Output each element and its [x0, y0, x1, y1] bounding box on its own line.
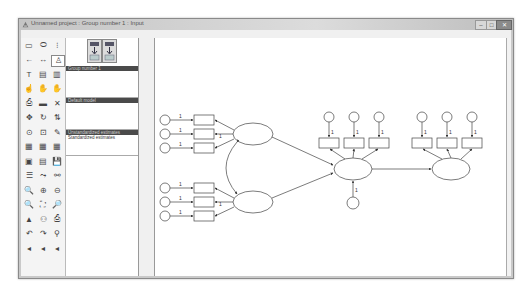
path-constraint-label: 1	[179, 141, 182, 147]
reflect-indicators-icon[interactable]: ⇅	[51, 113, 63, 123]
zoom-out-icon[interactable]: ⊖	[51, 185, 63, 195]
add-unique-variable-icon[interactable]: ♙	[51, 55, 65, 67]
draw-unobserved-variable-icon[interactable]: ⬭	[37, 40, 49, 50]
copy-diagram-icon[interactable]: ▣	[23, 156, 35, 166]
deselect-all-objects-icon[interactable]: ✋	[51, 84, 63, 94]
scroll-left-icon[interactable]: ◂	[23, 243, 35, 253]
groups-panel	[66, 71, 138, 98]
view-text-output-icon[interactable]: ▤	[37, 156, 49, 166]
analysis-properties-icon[interactable]: ▦	[37, 142, 49, 152]
path-constraint-label: 1	[356, 129, 359, 135]
multiple-group-analysis-icon[interactable]: ⚇	[37, 214, 49, 224]
path-constraint-label: 1	[381, 129, 384, 135]
preserve-symmetries-icon[interactable]: ⚯	[51, 171, 63, 181]
models-panel	[66, 103, 138, 130]
undo-icon[interactable]: ↶	[23, 229, 35, 239]
path-constraint-label: 1	[355, 187, 358, 193]
zoom-in-icon[interactable]: ⊕	[37, 185, 49, 195]
erase-objects-icon[interactable]: ✕	[51, 98, 63, 108]
factor3	[319, 112, 389, 209]
select-all-objects-icon[interactable]: ✋	[37, 84, 49, 94]
estimates-panel: Standardized estimates	[66, 135, 138, 156]
window-title: Unnamed project : Group number 1 : Input	[31, 20, 144, 26]
estimates-option-standardized[interactable]: Standardized estimates	[66, 135, 138, 140]
diagram-canvas[interactable]: 111111111111111	[154, 38, 507, 276]
output-diagram-icon	[103, 40, 116, 62]
move-objects-icon[interactable]: ▬	[37, 98, 49, 108]
factor4	[412, 112, 482, 180]
amos-window: Unnamed project : Group number 1 : Input…	[18, 18, 514, 279]
touch-up-variable-icon[interactable]: ✎	[51, 127, 63, 137]
path-constraint-label: 1	[179, 209, 182, 215]
path-constraint-label: 1	[179, 195, 182, 201]
print-diagram-icon[interactable]: ⎙	[51, 214, 63, 224]
side-panels: Group number 1 Default model Unstandardi…	[66, 38, 139, 276]
menu-bar: File Edit View Diagram Analyze Tools Plu…	[21, 30, 511, 38]
scroll-left-icon-3[interactable]: ◂	[51, 243, 63, 253]
list-variables-in-dataset-icon[interactable]: ▥	[51, 69, 63, 79]
scroll-left-icon-2[interactable]: ◂	[37, 243, 49, 253]
zoom-in-area-icon[interactable]: 🔍	[23, 185, 35, 195]
zoom-page-icon[interactable]: 🔍	[23, 200, 35, 210]
close-button[interactable]: ✕	[496, 20, 512, 30]
move-parameter-values-icon[interactable]: ⊙	[23, 127, 35, 137]
title-bar: Unnamed project : Group number 1 : Input…	[19, 19, 513, 30]
path-diagram[interactable]: 111111111111111	[155, 38, 508, 274]
fit-to-page-icon[interactable]: ⛶	[37, 200, 49, 210]
select-one-object-icon[interactable]: ☝	[23, 84, 35, 94]
path-constraint-label: 1	[219, 133, 222, 139]
output-path-diagram-button[interactable]	[102, 39, 117, 63]
rotate-indicators-icon[interactable]: ↻	[37, 113, 49, 123]
specification-search-icon[interactable]: ⚲	[51, 229, 63, 239]
draw-observed-variable-icon[interactable]: ▭	[23, 40, 35, 50]
save-diagram-icon[interactable]: 💾	[51, 156, 63, 166]
factor1-indicators	[160, 115, 273, 153]
draw-covariance-icon[interactable]: ↔	[37, 55, 49, 65]
app-icon	[22, 21, 29, 28]
loupe-icon[interactable]: 🔎	[51, 200, 63, 210]
draw-latent-with-indicators-icon[interactable]: ⁝	[51, 40, 63, 50]
input-diagram-icon	[88, 40, 101, 62]
client-area: ▭⬭⁝←↔♙T▤▥☝✋✋⎙▬✕✥↻⇅⊙⊡✎▦▦▦▣▤💾☰⤳⚯🔍⊕⊖🔍⛶🔎▲⚇⎙↶…	[21, 38, 511, 276]
drag-properties-icon[interactable]: ⤳	[37, 171, 49, 181]
select-data-files-icon[interactable]: ▦	[23, 142, 35, 152]
panel-gutter	[139, 38, 154, 276]
draw-path-icon[interactable]: ←	[23, 55, 35, 65]
path-constraint-label: 1	[424, 129, 427, 135]
factor2-indicators	[160, 183, 273, 221]
path-constraint-label: 1	[219, 201, 222, 207]
redo-icon[interactable]: ↷	[37, 229, 49, 239]
path-constraint-label: 1	[331, 129, 334, 135]
path-constraint-label: 1	[179, 127, 182, 133]
path-constraint-label: 1	[474, 129, 477, 135]
bayesian-estimation-icon[interactable]: ▲	[23, 214, 35, 224]
files-panel	[66, 156, 138, 256]
toolbox: ▭⬭⁝←↔♙T▤▥☝✋✋⎙▬✕✥↻⇅⊙⊡✎▦▦▦▣▤💾☰⤳⚯🔍⊕⊖🔍⛶🔎▲⚇⎙↶…	[21, 38, 66, 276]
path-constraint-label: 1	[179, 113, 182, 119]
duplicate-objects-icon[interactable]: ⎙	[23, 98, 35, 108]
path-constraint-label: 1	[179, 181, 182, 187]
list-variables-in-model-icon[interactable]: ▤	[37, 69, 49, 79]
reposition-diagram-icon[interactable]: ⊡	[37, 127, 49, 137]
input-path-diagram-button[interactable]	[87, 39, 102, 63]
path-view-switch	[66, 38, 138, 67]
calculate-estimates-icon[interactable]: ▦	[51, 142, 63, 152]
object-properties-icon[interactable]: ☰	[23, 171, 35, 181]
figure-caption-icon[interactable]: T	[23, 69, 35, 79]
change-shape-icon[interactable]: ✥	[23, 113, 35, 123]
path-constraint-label: 1	[449, 129, 452, 135]
